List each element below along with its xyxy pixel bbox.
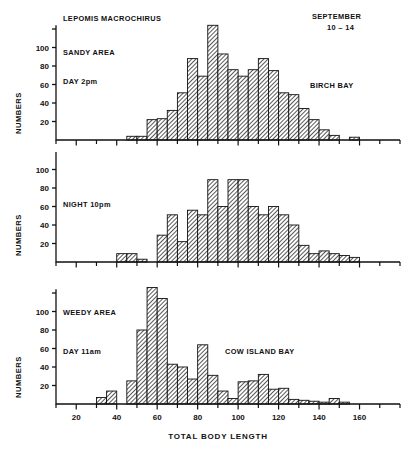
histogram-bar [177, 93, 187, 140]
histogram-bar [299, 109, 309, 140]
date-month: SEPTEMBER [312, 12, 361, 21]
x-tick-label: 140 [312, 413, 326, 422]
histogram-bar [299, 245, 309, 262]
histogram-bar [309, 254, 319, 262]
time-label: DAY 2pm [63, 77, 98, 86]
histogram-bar [167, 215, 177, 262]
time-label: DAY 11am [63, 347, 101, 356]
y-tick-label: 100 [36, 308, 50, 317]
y-tick-label: 100 [36, 166, 50, 175]
histogram-bar [228, 180, 238, 262]
plot-area-bottom: 2040608010020406080100120140160 [0, 274, 408, 444]
histogram-bar [157, 299, 167, 404]
histogram-bar [208, 180, 218, 262]
histogram-bar [268, 71, 278, 140]
y-tick-label: 20 [40, 118, 49, 127]
x-tick-label: 160 [353, 413, 367, 422]
histogram-bar [218, 207, 228, 263]
histogram-bar [198, 76, 208, 140]
histogram-bar [188, 210, 198, 262]
histogram-bar [268, 389, 278, 404]
location-label: COW ISLAND BAY [225, 347, 295, 356]
histogram-bar [289, 225, 299, 262]
y-axis-label: NUMBERS [14, 356, 23, 398]
x-tick-label: 120 [272, 413, 286, 422]
histogram-bar [289, 95, 299, 140]
y-tick-label: 40 [40, 99, 49, 108]
y-tick-label: 80 [40, 326, 49, 335]
histogram-bar [96, 398, 106, 404]
histogram-bar [218, 391, 228, 404]
histogram-bar [198, 215, 208, 262]
y-tick-label: 20 [40, 382, 49, 391]
histogram-bar [339, 256, 349, 262]
histogram-bar [279, 388, 289, 404]
histogram-bar [228, 398, 238, 404]
y-tick-label: 60 [40, 345, 49, 354]
histogram-bar [248, 207, 258, 263]
histogram-bar [309, 120, 319, 140]
y-tick-label: 60 [40, 203, 49, 212]
histogram-bar [319, 251, 329, 262]
histogram-bar [238, 76, 248, 140]
histogram-bar [258, 215, 268, 262]
histogram-bar [177, 367, 187, 404]
time-label: NIGHT 10pm [63, 200, 111, 209]
histogram-bar [218, 54, 228, 140]
histogram-bar [268, 207, 278, 263]
y-tick-label: 40 [40, 363, 49, 372]
location-label: BIRCH BAY [310, 81, 354, 90]
habitat-label: WEEDY AREA [63, 308, 116, 317]
histogram-bar [157, 235, 167, 262]
x-tick-label: 100 [231, 413, 245, 422]
histogram-bar [248, 381, 258, 404]
histogram-bar [127, 254, 137, 262]
x-axis-label: TOTAL BODY LENGTH [14, 432, 408, 441]
histogram-bar [157, 119, 167, 140]
y-axis-label: NUMBERS [14, 92, 23, 134]
histogram-bar [248, 70, 258, 140]
histogram-bar [258, 374, 268, 404]
bars-middle [117, 180, 360, 262]
histogram-bar [147, 120, 157, 140]
y-tick-label: 80 [40, 62, 49, 71]
x-tick-label: 20 [72, 413, 81, 422]
histogram-bar [279, 215, 289, 262]
histogram-bar [137, 330, 147, 404]
histogram-bar [127, 381, 137, 404]
histogram-bar [289, 399, 299, 404]
species-title: LEPOMIS MACROCHIRUS [63, 14, 161, 23]
histogram-bar [208, 375, 218, 404]
histogram-bar [238, 382, 248, 404]
histogram-bar [329, 398, 339, 404]
histogram-bar [188, 59, 198, 140]
histogram-bar [329, 135, 339, 140]
histogram-bar [319, 130, 329, 140]
histogram-bar [329, 254, 339, 262]
histogram-bar [349, 257, 359, 262]
x-tick-label: 60 [153, 413, 162, 422]
y-tick-label: 80 [40, 184, 49, 193]
y-axis-label: NUMBERS [14, 214, 23, 256]
habitat-label: SANDY AREA [63, 48, 115, 57]
histogram-panel-bottom: 2040608010020406080100120140160NUMBERSWE… [0, 274, 408, 444]
histogram-bar [198, 345, 208, 404]
histogram-bar [228, 70, 238, 140]
histogram-bar [208, 25, 218, 140]
y-tick-label: 60 [40, 81, 49, 90]
y-tick-label: 20 [40, 240, 49, 249]
histogram-bar [188, 379, 198, 404]
y-tick-label: 40 [40, 221, 49, 230]
bars-bottom [96, 287, 349, 404]
histogram-bar [279, 93, 289, 140]
histogram-bar [258, 59, 268, 140]
figure-lepomis-length-frequency: 20406080100NUMBERSLEPOMIS MACROCHIRUSSAN… [0, 0, 408, 455]
histogram-bar [238, 180, 248, 262]
histogram-bar [117, 254, 127, 262]
histogram-bar [107, 391, 117, 404]
x-tick-label: 40 [112, 413, 121, 422]
histogram-bar [147, 287, 157, 404]
x-tick-label: 80 [193, 413, 202, 422]
date-days: 10 – 14 [327, 23, 354, 32]
histogram-bar [167, 110, 177, 140]
